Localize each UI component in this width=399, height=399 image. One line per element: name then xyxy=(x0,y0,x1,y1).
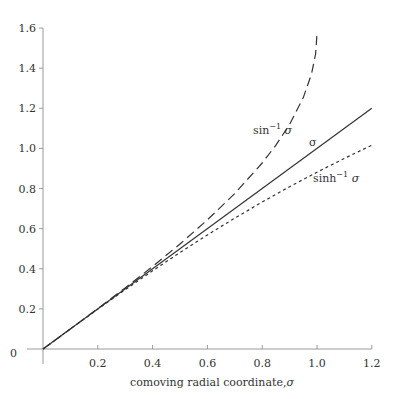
y-tick-label: 1.0 xyxy=(19,142,37,155)
chart: 0.20.40.60.81.01.20.20.40.60.81.01.21.41… xyxy=(0,0,399,399)
x-tick-label: 1.2 xyxy=(363,357,381,370)
x-tick-label: 0.6 xyxy=(199,357,217,370)
y-tick-label: 1.6 xyxy=(19,22,37,35)
x-tick-label: 0.4 xyxy=(144,357,162,370)
asin-curve xyxy=(43,34,317,349)
x-axis-title: comoving radial coordinate,σ xyxy=(130,376,294,389)
curves xyxy=(43,34,372,349)
x-tick-label: 1.0 xyxy=(308,357,326,370)
y-tick-label: 0.4 xyxy=(19,263,37,276)
x-tick-label: 0.2 xyxy=(89,357,107,370)
y-tick-label: 0.2 xyxy=(19,303,37,316)
asinh-curve-label: sinh−1 σ xyxy=(313,170,360,185)
y-tick-label: 0.6 xyxy=(19,223,37,236)
sigma-curve-label: σ xyxy=(309,136,317,149)
y-tick-label: 1.4 xyxy=(19,62,37,75)
y-tick-label: 0.8 xyxy=(19,183,37,196)
x-tick-label: 0.8 xyxy=(253,357,271,370)
axes: 0.20.40.60.81.01.20.20.40.60.81.01.21.41… xyxy=(19,22,381,370)
origin-label: 0 xyxy=(10,347,17,360)
y-tick-label: 1.2 xyxy=(19,102,37,115)
asin-curve-label: sin−1 σ xyxy=(253,122,293,137)
